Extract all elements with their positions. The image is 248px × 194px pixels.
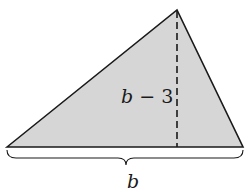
base-brace [7, 150, 243, 165]
height-label-op: − 3 [139, 85, 173, 107]
height-label: b − 3 [121, 87, 173, 106]
base-label: b [127, 172, 139, 191]
triangle-shape [7, 10, 243, 147]
height-label-var: b [121, 85, 133, 107]
triangle-diagram: b − 3 b [0, 0, 248, 194]
